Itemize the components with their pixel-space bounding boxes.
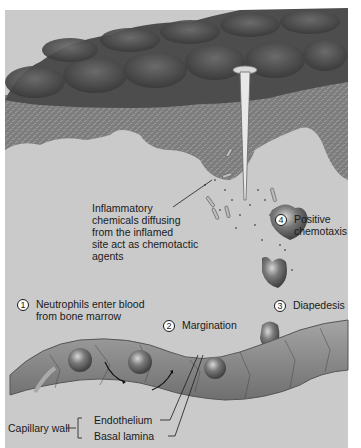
inflammation-diagram: 4 Positive chemotaxis Inflammatory chemi…: [0, 0, 361, 448]
label-diapedesis: 3 Diapedesis: [274, 299, 345, 312]
label-margination: 2 Margination: [163, 319, 237, 332]
neutrophil-in-blood: [68, 348, 92, 372]
label-positive-chemotaxis: 4 Positive chemotaxis: [275, 213, 347, 237]
label-inflammatory-chemicals: Inflammatory chemicals diffusing from th…: [92, 202, 198, 262]
step-number-3: 3: [274, 300, 286, 312]
label-capillary-wall: Capillary wall: [8, 422, 70, 434]
neutrophil-margination: [204, 357, 226, 379]
label-endothelium: Endothelium: [94, 414, 152, 426]
step-number-2: 2: [163, 320, 175, 332]
step-number-1: 1: [17, 299, 29, 311]
label-neutrophils-enter-blood: 1 Neutrophils enter blood from bone marr…: [17, 298, 145, 322]
neutrophil-rolling: [128, 350, 152, 374]
label-basal-lamina: Basal lamina: [94, 430, 154, 442]
step-number-4: 4: [275, 214, 287, 226]
